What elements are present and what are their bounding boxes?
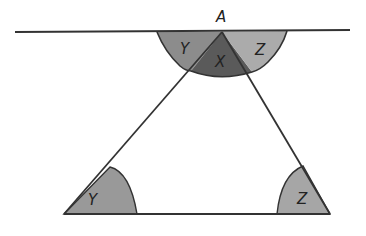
- angle-diagram: A Y X Z Y Z: [0, 0, 366, 236]
- label-x: X: [214, 53, 226, 71]
- side-ac: [222, 32, 330, 214]
- angle-y-bottom: [64, 167, 137, 214]
- side-ab: [64, 32, 222, 214]
- label-z-bottom: Z: [296, 190, 308, 208]
- label-a: A: [215, 8, 226, 26]
- label-z-top: Z: [254, 41, 266, 59]
- parallel-line: [15, 30, 350, 32]
